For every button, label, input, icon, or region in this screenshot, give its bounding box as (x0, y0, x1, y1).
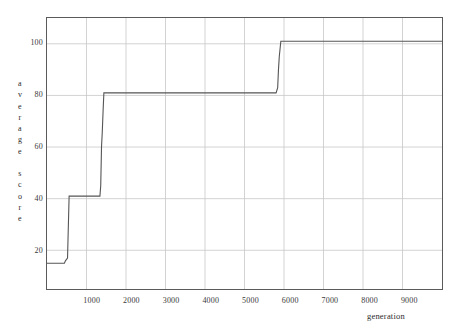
y-axis-title-char: a (14, 123, 26, 134)
chart-container: 20406080100 1000200030004000500060007000… (0, 0, 466, 334)
y-axis-title-char: r (14, 112, 26, 123)
y-axis-title-char: v (14, 89, 26, 100)
x-tick-label: 2000 (111, 296, 151, 305)
y-axis-title-char: e (14, 213, 26, 224)
y-axis-title-char: r (14, 202, 26, 213)
y-axis-title-char: g (14, 134, 26, 145)
y-axis-title-char: o (14, 191, 26, 202)
x-tick-label: 1000 (72, 296, 112, 305)
y-axis-title-char: c (14, 179, 26, 190)
x-tick-label: 8000 (350, 296, 390, 305)
y-axis-title-char: e (14, 101, 26, 112)
x-tick-label: 5000 (231, 296, 271, 305)
x-axis-tick-labels: 100020003000400050006000700080009000 (0, 0, 466, 334)
y-axis-title-char (14, 157, 26, 168)
x-tick-label: 9000 (389, 296, 429, 305)
x-tick-label: 6000 (270, 296, 310, 305)
x-axis-title: generation (367, 311, 405, 321)
y-axis-title-char: e (14, 146, 26, 157)
x-tick-label: 7000 (310, 296, 350, 305)
y-axis-title: average score (14, 78, 26, 225)
y-axis-title-char: a (14, 78, 26, 89)
x-tick-label: 3000 (151, 296, 191, 305)
x-tick-label: 4000 (191, 296, 231, 305)
y-axis-title-char: s (14, 168, 26, 179)
